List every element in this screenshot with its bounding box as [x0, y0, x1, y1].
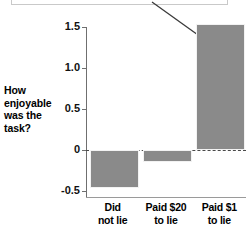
- x-label-did-not-lie: Did not lie: [86, 201, 139, 231]
- annotation-callout-box: the task was most enjoyable: [11, 0, 228, 5]
- x-label-line-1: Did: [86, 201, 139, 214]
- x-axis-line: [86, 197, 246, 198]
- y-axis-title-line-2: enjoyable: [4, 97, 66, 110]
- y-tick-mark: [82, 27, 86, 28]
- x-label-paid-20-to-lie: Paid $20 to lie: [139, 201, 192, 231]
- bar-paid-1-to-lie[interactable]: [196, 24, 245, 150]
- x-label-line-1: Paid $1: [193, 201, 246, 214]
- x-label-paid-1-to-lie: Paid $1 to lie: [193, 201, 246, 231]
- plot-area: 1.5 1.0 0.5 0 -0.5: [86, 20, 246, 200]
- y-tick-label: 1.0: [65, 61, 80, 73]
- bar-did-not-lie[interactable]: [90, 150, 139, 188]
- y-tick-mark: [82, 68, 86, 69]
- x-label-line-2: to lie: [193, 214, 246, 227]
- y-axis-title-line-3: was the: [4, 109, 66, 122]
- y-tick-label: 1.5: [65, 20, 80, 32]
- y-axis-line: [86, 27, 87, 198]
- bar-paid-20-to-lie[interactable]: [143, 150, 192, 162]
- y-axis-title: How enjoyable was the task?: [4, 84, 66, 134]
- y-tick-mark: [82, 191, 86, 192]
- x-label-line-1: Paid $20: [139, 201, 192, 214]
- x-label-line-2: not lie: [86, 214, 139, 227]
- y-tick-label: 0.5: [65, 102, 80, 114]
- y-axis-title-line-4: task?: [4, 122, 66, 135]
- y-axis-title-line-1: How: [4, 84, 66, 97]
- y-tick-mark: [82, 109, 86, 110]
- y-tick-label: 0: [74, 143, 80, 155]
- y-tick-label: -0.5: [61, 184, 80, 196]
- x-axis-labels: Did not lie Paid $20 to lie Paid $1 to l…: [86, 201, 246, 231]
- x-label-line-2: to lie: [139, 214, 192, 227]
